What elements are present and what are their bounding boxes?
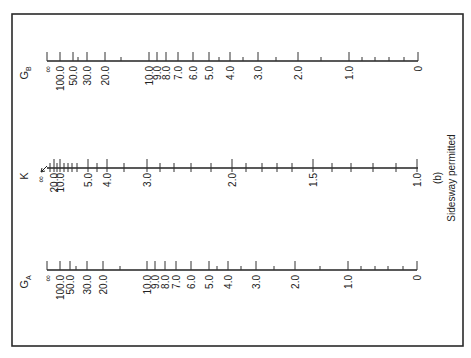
tick-label: ∞: [43, 275, 53, 281]
tick-label: 7.0: [173, 66, 184, 80]
tick-label: 50.0: [68, 66, 79, 86]
tick-label: 2.0: [227, 173, 238, 187]
tick-label: 50.0: [65, 275, 76, 295]
tick-label: 2.0: [290, 275, 301, 289]
tick-label: 20.0: [100, 66, 111, 86]
scale-K: 20.010.05.04.03.02.01.51.0∞K: [18, 159, 423, 192]
tick-label: 10.0: [55, 173, 66, 193]
tick-label: 30.0: [82, 275, 93, 295]
scale-GB: ∞100.050.030.020.010.09.08.07.06.05.04.0…: [18, 52, 424, 91]
infinity-arrow-icon: [41, 166, 47, 172]
scales-group: ∞100.050.030.020.010.09.08.07.06.05.04.0…: [18, 52, 424, 300]
tick-label: 0: [412, 275, 423, 281]
alignment-chart: ∞100.050.030.020.010.09.08.07.06.05.04.0…: [0, 0, 471, 358]
tick-label: 1.0: [344, 66, 355, 80]
tick-label: 0: [413, 66, 424, 72]
scale-name-GB: GB: [18, 66, 32, 80]
tick-label: 1.0: [412, 173, 423, 187]
tick-label: 3.0: [142, 173, 153, 187]
tick-label: 5.0: [204, 66, 215, 80]
scale-name-GA: GA: [18, 275, 32, 289]
tick-label: 4.0: [102, 173, 113, 187]
nomograph-svg: ∞100.050.030.020.010.09.08.07.06.05.04.0…: [0, 0, 471, 358]
tick-label: 8.0: [161, 66, 172, 80]
tick-label: 3.0: [253, 66, 264, 80]
tick-label: 5.0: [83, 173, 94, 187]
caption-letter: (b): [432, 172, 443, 184]
tick-label: 20.0: [98, 275, 109, 295]
tick-label: 4.0: [223, 275, 234, 289]
tick-label: ∞: [36, 176, 46, 182]
tick-label: 5.0: [204, 275, 215, 289]
tick-label: 1.5: [308, 173, 319, 187]
tick-label: 100.0: [55, 66, 66, 91]
tick-label: 3.0: [251, 275, 262, 289]
caption-text: Sidesway permitted: [446, 134, 457, 221]
tick-label: 1.0: [343, 275, 354, 289]
tick-label: 8.0: [160, 275, 171, 289]
figure-frame: [12, 14, 463, 346]
scale-name-K: K: [18, 172, 30, 180]
tick-label: ∞: [43, 66, 53, 72]
tick-label: 4.0: [225, 66, 236, 80]
scale-GA: ∞100.050.030.020.010.09.08.07.06.05.04.0…: [18, 261, 423, 300]
tick-label: 7.0: [171, 275, 182, 289]
tick-label: 30.0: [82, 66, 93, 86]
tick-label: 6.0: [188, 66, 199, 80]
tick-label: 6.0: [186, 275, 197, 289]
tick-label: 2.0: [293, 66, 304, 80]
